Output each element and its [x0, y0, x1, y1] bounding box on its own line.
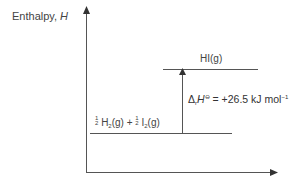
upper-level-label: HI(g)	[200, 53, 222, 64]
y-axis-label: Enthalpy, H	[12, 10, 68, 22]
arrowhead-up-icon	[178, 68, 187, 76]
enthalpy-change-label: ΔrH⊖ = +26.5 kJ mol−1	[188, 93, 288, 106]
fraction-half: 12	[95, 116, 98, 126]
fraction-half: 12	[135, 116, 138, 126]
y-axis-arrowhead-icon	[82, 6, 91, 15]
lower-level-label: 12 H2(g) + 12 I2(g)	[95, 116, 160, 129]
x-axis	[86, 172, 272, 173]
enthalpy-change-arrow	[182, 72, 183, 133]
x-axis-arrowhead-icon	[270, 168, 279, 177]
lower-energy-level	[90, 133, 232, 134]
y-axis	[86, 12, 87, 173]
